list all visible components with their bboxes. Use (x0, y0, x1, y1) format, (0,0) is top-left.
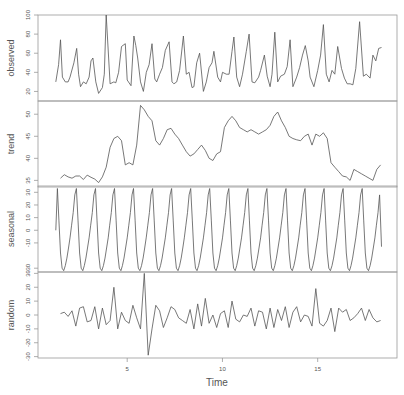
series-line-trend (61, 105, 381, 182)
y-tick-label: 30 (25, 188, 31, 195)
y-tick-label: 100 (25, 9, 31, 20)
panel-seasonal: -30-100102030seasonal (6, 186, 397, 273)
y-tick-label: -10 (25, 238, 31, 247)
decomposition-chart: 20406080100observed35404550trend-30-1001… (0, 0, 404, 395)
y-tick-label: 20 (25, 87, 31, 94)
panel-frame (38, 272, 397, 358)
y-tick-label: 0 (25, 228, 31, 232)
panel-observed: 20406080100observed (6, 9, 397, 101)
y-tick-label: 20 (25, 201, 31, 208)
panel-trend: 35404550trend (6, 101, 397, 187)
series-line-observed (56, 15, 382, 93)
y-axis-label: random (6, 300, 16, 331)
y-tick-label: 45 (25, 132, 31, 139)
y-tick-label: 40 (25, 154, 31, 161)
y-tick-label: 10 (25, 214, 31, 221)
y-tick-label: 35 (25, 176, 31, 183)
panel-frame (38, 186, 397, 272)
panel-frame (38, 101, 397, 187)
y-tick-label: 40 (25, 68, 31, 75)
y-tick-label: 30 (25, 269, 31, 276)
y-axis-label: trend (6, 134, 16, 155)
y-tick-label: 80 (25, 30, 31, 37)
x-tick-label: 5 (126, 366, 130, 372)
x-axis-label: Time (206, 377, 228, 388)
x-tick-label: 15 (314, 366, 321, 372)
series-line-random (61, 273, 381, 355)
x-axis: 51015 (126, 358, 322, 372)
x-tick-label: 10 (219, 366, 226, 372)
panel-random: -30-20-100102030random (6, 269, 397, 361)
y-tick-label: 0 (25, 313, 31, 317)
y-tick-label: -30 (25, 352, 31, 361)
y-tick-label: 20 (25, 283, 31, 290)
y-tick-label: 60 (25, 49, 31, 56)
y-axis-label: seasonal (6, 211, 16, 247)
panel-frame (38, 15, 397, 101)
y-tick-label: 10 (25, 297, 31, 304)
y-tick-label: 50 (25, 110, 31, 117)
y-axis-label: observed (6, 39, 16, 76)
series-line-seasonal (56, 189, 382, 271)
y-tick-label: -10 (25, 324, 31, 333)
panels-group: 20406080100observed35404550trend-30-1001… (6, 9, 397, 361)
y-tick-label: -20 (25, 338, 31, 347)
